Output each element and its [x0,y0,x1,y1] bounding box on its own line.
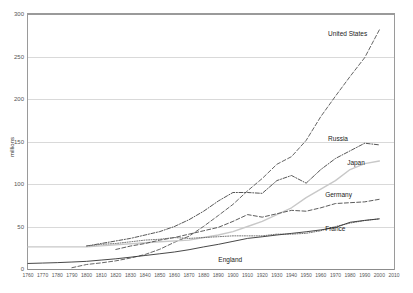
x-tick-label-1970: 1970 [330,273,341,278]
series-label-france: France [325,226,345,233]
x-tick-label-1780: 1780 [52,273,63,278]
x-tick-label-1790: 1790 [66,273,77,278]
series-line-france [87,219,380,246]
plot-area: 050100150200250300 176017701780179018001… [27,13,395,270]
x-tick-label-1890: 1890 [213,273,224,278]
y-tick-label-250: 250 [4,54,24,60]
x-tick-label-1810: 1810 [96,273,107,278]
x-tick-label-1980: 1980 [345,273,356,278]
series-label-united-states: United States [328,31,367,38]
series-label-germany: Germany [325,192,352,199]
x-tick-label-1920: 1920 [257,273,268,278]
series-label-russia: Russia [328,136,348,143]
x-tick-label-1820: 1820 [110,273,121,278]
series-label-japan: Japan [347,160,365,167]
x-tick-label-2010: 2010 [388,273,399,278]
x-tick-label-1870: 1870 [183,273,194,278]
x-tick-label-1860: 1860 [169,273,180,278]
x-tick-label-1990: 1990 [359,273,370,278]
y-tick-label-150: 150 [4,139,24,145]
x-tick-label-1850: 1850 [154,273,165,278]
x-tick-label-1880: 1880 [198,273,209,278]
x-tick-label-1930: 1930 [271,273,282,278]
x-tick-label-1900: 1900 [227,273,238,278]
population-line-chart: millions 050100150200250300 176017701780… [0,0,413,293]
series-label-england: England [218,257,242,264]
y-tick-label-50: 50 [4,224,24,230]
gridline-0 [28,269,394,270]
x-tick-label-1770: 1770 [37,273,48,278]
x-tick-label-1830: 1830 [125,273,136,278]
x-tick-label-1950: 1950 [301,273,312,278]
x-tick-label-1940: 1940 [286,273,297,278]
x-tick-label-1910: 1910 [242,273,253,278]
y-tick-label-100: 100 [4,181,24,187]
x-tick-label-1960: 1960 [315,273,326,278]
x-tick-label-1760: 1760 [22,273,33,278]
series-line-japan [28,161,379,247]
x-tick-label-1800: 1800 [81,273,92,278]
x-tick-label-2000: 2000 [374,273,385,278]
y-tick-label-200: 200 [4,96,24,102]
y-tick-label-300: 300 [4,11,24,17]
x-tick-label-1840: 1840 [140,273,151,278]
y-tick-label-0: 0 [4,266,24,272]
